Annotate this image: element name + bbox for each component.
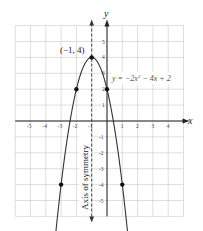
y-axis-arrow-icon — [105, 20, 110, 27]
vertex-label: (−1, 4) — [60, 45, 85, 55]
y-tick-label: -5 — [99, 198, 104, 204]
data-point — [105, 87, 109, 91]
x-tick-label: 1 — [121, 123, 124, 129]
x-tick-label: -2 — [73, 123, 78, 129]
y-tick-label: 2 — [102, 86, 105, 92]
equation-suffix: − 4x + 2 — [140, 74, 170, 83]
data-point — [120, 182, 124, 186]
y-tick-label: 4 — [102, 54, 105, 60]
parabola-chart: -5-4-3-2-11234-5-4-3-2-112345 y x (−1, 4… — [0, 0, 203, 231]
y-tick-label: -1 — [99, 134, 104, 140]
x-tick-label: 2 — [136, 123, 139, 129]
equation-prefix: y = −2x — [111, 74, 138, 83]
x-tick-label: -3 — [58, 123, 63, 129]
x-tick-label: 4 — [167, 123, 170, 129]
symmetry-arrow-down-icon — [89, 216, 94, 222]
y-axis-title: y — [103, 8, 109, 19]
symmetry-label: Axis of symmetry — [80, 145, 90, 210]
x-tick-label: 3 — [151, 123, 154, 129]
x-axis-title: x — [187, 115, 193, 126]
y-tick-label: 1 — [102, 102, 105, 108]
x-tick-label: -4 — [42, 123, 47, 129]
y-tick-label: -2 — [99, 150, 104, 156]
y-tick-label: -3 — [99, 166, 104, 172]
equation-label: y = −2x2 − 4x + 2 — [111, 74, 171, 83]
data-point — [59, 182, 63, 186]
symmetry-arrow-up-icon — [89, 20, 94, 26]
x-tick-label: -1 — [88, 123, 93, 129]
data-point — [74, 87, 78, 91]
y-tick-label: 5 — [102, 39, 105, 45]
data-point — [90, 55, 94, 59]
x-tick-label: -5 — [27, 123, 32, 129]
y-tick-label: -4 — [99, 182, 104, 188]
